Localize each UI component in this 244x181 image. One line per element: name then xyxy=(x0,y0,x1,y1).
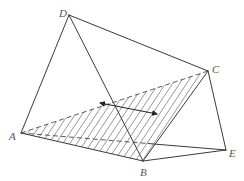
hatch-line xyxy=(199,0,244,181)
vertex-label-b: B xyxy=(140,166,147,178)
edge-ce xyxy=(208,71,226,150)
hatch-line xyxy=(115,0,235,181)
hatch-line xyxy=(3,0,123,181)
hatch-line xyxy=(0,0,46,181)
direction-arrow xyxy=(100,103,157,114)
hatch-line xyxy=(0,0,81,181)
hatch-line xyxy=(136,0,244,181)
edge-be xyxy=(143,150,226,161)
vertex-labels: A B C D E xyxy=(8,7,236,178)
hatch-line xyxy=(0,0,32,181)
geometry-figure: A B C D E xyxy=(0,0,244,181)
hatch-line xyxy=(0,0,53,181)
hatch-line xyxy=(0,0,18,181)
hatch-line xyxy=(129,0,244,181)
hatch-line xyxy=(122,0,242,181)
hatch-line xyxy=(0,0,102,181)
hatch-line xyxy=(206,0,244,181)
hatch-line xyxy=(108,0,228,181)
hatch-line xyxy=(0,0,95,181)
vertex-label-d: D xyxy=(58,7,67,19)
vertex-label-a: A xyxy=(8,130,16,142)
edge-ab xyxy=(21,133,143,161)
edge-da xyxy=(21,15,69,133)
hatch-line xyxy=(0,0,67,181)
hatch-line xyxy=(0,0,109,181)
hidden-edge-ac xyxy=(21,71,208,133)
hatch-line xyxy=(0,0,11,181)
vertex-label-e: E xyxy=(228,147,236,159)
hatch-line xyxy=(241,0,244,181)
edge-ae-visible xyxy=(148,144,226,150)
polyhedron-diagram: A B C D E xyxy=(0,0,244,181)
vertex-label-c: C xyxy=(212,63,220,75)
hatch-line xyxy=(0,0,25,181)
shaded-face-abc xyxy=(0,0,244,181)
hatch-line xyxy=(0,0,39,181)
edge-dc xyxy=(69,15,208,71)
hatch-line xyxy=(0,0,74,181)
hatch-line xyxy=(0,0,4,181)
hatch-line xyxy=(101,0,221,181)
hatch-line xyxy=(0,0,60,181)
